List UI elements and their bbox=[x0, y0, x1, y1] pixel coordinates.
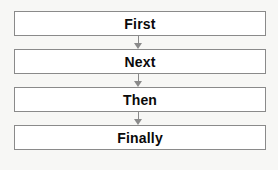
flowchart-step-label-then: Then bbox=[123, 93, 157, 107]
sequence-flowchart: First Next Then Finally bbox=[0, 0, 278, 170]
flowchart-step-label-first: First bbox=[124, 17, 155, 31]
arrow-then-to-finally bbox=[14, 112, 266, 125]
down-arrow-icon bbox=[134, 36, 143, 49]
arrow-first-to-next bbox=[14, 36, 266, 49]
down-arrow-icon bbox=[134, 74, 143, 87]
flowchart-step-box-next[interactable]: Next bbox=[14, 49, 266, 74]
arrow-next-to-then bbox=[14, 74, 266, 87]
flowchart-step-label-finally: Finally bbox=[117, 131, 163, 145]
down-arrow-icon bbox=[134, 112, 143, 125]
flowchart-step-label-next: Next bbox=[124, 55, 155, 69]
flowchart-step-box-first[interactable]: First bbox=[14, 11, 266, 36]
flowchart-step-box-then[interactable]: Then bbox=[14, 87, 266, 112]
flowchart-step-box-finally[interactable]: Finally bbox=[14, 125, 266, 150]
